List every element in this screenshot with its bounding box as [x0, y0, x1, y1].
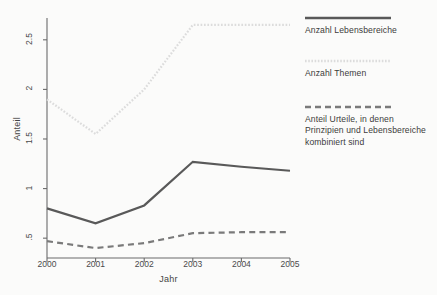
y-axis-tick-label: 2: [24, 76, 34, 100]
legend-sample-dotted-line: [305, 57, 391, 65]
y-axis-tick-marks: [43, 40, 47, 238]
legend-label-anzahl-lebensbereiche: Anzahl Lebensbereiche: [305, 25, 437, 36]
y-axis-title: Anteil: [12, 99, 22, 159]
x-axis-tick-label: 2003: [176, 259, 210, 269]
legend-entry-anteil-urteile: Anteil Urteile, in denen Prinzipien und …: [305, 103, 437, 148]
legend-sample-dashed-line: [305, 103, 391, 111]
legend-label-anteil-urteile: Anteil Urteile, in denen Prinzipien und …: [305, 114, 437, 148]
chart-screenshot: Anteil Jahr .511.522.5 20002001200220032…: [0, 0, 437, 295]
y-axis-tick-label: 2.5: [24, 27, 34, 51]
y-axis-tick-label: .5: [24, 225, 34, 249]
data-series-line: [47, 25, 290, 134]
legend-sample-solid-line: [305, 14, 391, 22]
x-axis-tick-label: 2001: [79, 259, 113, 269]
legend-label-line-1: Anteil Urteile, in denen: [305, 114, 437, 125]
legend-label-line-3: kombiniert sind: [305, 137, 437, 148]
data-series-layer: [47, 25, 290, 248]
x-axis-tick-label: 2004: [224, 259, 258, 269]
x-axis-tick-label: 2000: [30, 259, 64, 269]
x-axis-title: Jahr: [47, 274, 290, 284]
y-axis-tick-label: 1.5: [24, 126, 34, 150]
y-axis-tick-label: 1: [24, 176, 34, 200]
chart-legend: Anzahl Lebensbereiche Anzahl Themen Ante…: [300, 0, 437, 295]
x-axis-tick-label: 2002: [127, 259, 161, 269]
legend-entry-anzahl-lebensbereiche: Anzahl Lebensbereiche: [305, 14, 437, 36]
data-series-line: [47, 232, 290, 248]
legend-label-line-2: Prinzipien und Lebensbereiche: [305, 125, 437, 136]
legend-label-anzahl-themen: Anzahl Themen: [305, 68, 437, 79]
data-series-line: [47, 162, 290, 223]
plot-area: [0, 0, 300, 295]
legend-entry-anzahl-themen: Anzahl Themen: [305, 57, 437, 79]
chart-panel: Anteil Jahr .511.522.5 20002001200220032…: [0, 0, 300, 295]
